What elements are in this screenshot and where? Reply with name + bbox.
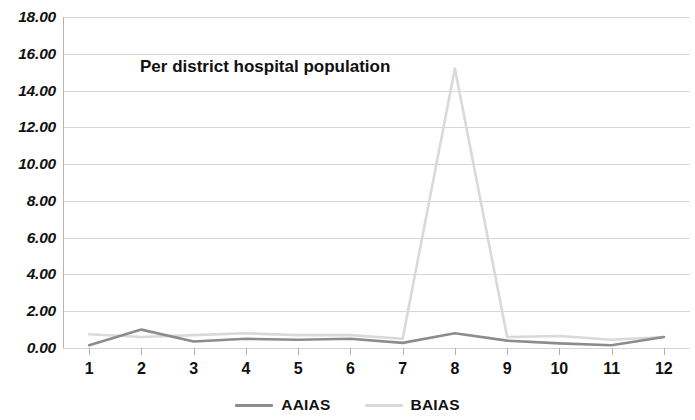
x-axis-tick-label: 10 xyxy=(539,360,579,378)
grid-line xyxy=(63,91,690,92)
grid-line xyxy=(63,127,690,128)
x-axis-tick-label: 11 xyxy=(592,360,632,378)
y-axis-tick-label: 14.00 xyxy=(0,82,56,100)
x-axis-tick xyxy=(141,348,142,355)
grid-line xyxy=(63,274,690,275)
y-axis-tick-label: 4.00 xyxy=(0,265,56,283)
x-axis-tick-label: 2 xyxy=(121,360,161,378)
grid-line xyxy=(63,311,690,312)
legend-swatch-icon xyxy=(235,404,273,407)
x-axis-tick xyxy=(455,348,456,355)
x-axis-tick-label: 1 xyxy=(69,360,109,378)
x-axis-tick xyxy=(403,348,404,355)
legend-swatch-icon xyxy=(365,404,403,407)
grid-line xyxy=(63,54,690,55)
x-axis-tick-label: 4 xyxy=(226,360,266,378)
chart-container: 0.002.004.006.008.0010.0012.0014.0016.00… xyxy=(0,0,695,420)
y-axis-tick-label: 10.00 xyxy=(0,155,56,173)
legend-item-baias[interactable]: BAIAS xyxy=(365,396,460,414)
x-axis-tick-label: 6 xyxy=(330,360,370,378)
y-axis-tick-label: 12.00 xyxy=(0,118,56,136)
x-axis-tick-label: 9 xyxy=(487,360,527,378)
legend-label: AAIAS xyxy=(281,396,330,414)
grid-line xyxy=(63,201,690,202)
y-axis-tick-label: 16.00 xyxy=(0,45,56,63)
y-axis-tick-label: 8.00 xyxy=(0,192,56,210)
legend-label: BAIAS xyxy=(411,396,460,414)
y-axis-tick-label: 6.00 xyxy=(0,229,56,247)
grid-line xyxy=(63,164,690,165)
x-axis-tick-label: 3 xyxy=(174,360,214,378)
chart-title: Per district hospital population xyxy=(140,57,390,77)
x-axis-tick xyxy=(664,348,665,355)
x-axis-tick-label: 12 xyxy=(644,360,684,378)
y-axis-tick-label: 2.00 xyxy=(0,302,56,320)
y-axis-tick-label: 18.00 xyxy=(0,8,56,26)
x-axis-tick-label: 5 xyxy=(278,360,318,378)
x-axis-tick xyxy=(89,348,90,355)
x-axis-tick xyxy=(194,348,195,355)
grid-line xyxy=(63,17,690,18)
grid-line xyxy=(63,238,690,239)
x-axis-tick-label: 8 xyxy=(435,360,475,378)
chart-legend: AAIASBAIAS xyxy=(0,396,695,414)
x-axis-tick-label: 7 xyxy=(383,360,423,378)
y-axis-tick-label: 0.00 xyxy=(0,339,56,357)
x-axis-tick xyxy=(559,348,560,355)
x-axis-tick xyxy=(612,348,613,355)
x-axis-tick xyxy=(246,348,247,355)
x-axis-tick xyxy=(298,348,299,355)
legend-item-aaias[interactable]: AAIAS xyxy=(235,396,330,414)
x-axis-tick xyxy=(507,348,508,355)
y-axis-line xyxy=(63,17,64,348)
grid-line xyxy=(63,348,690,349)
x-axis-tick xyxy=(350,348,351,355)
